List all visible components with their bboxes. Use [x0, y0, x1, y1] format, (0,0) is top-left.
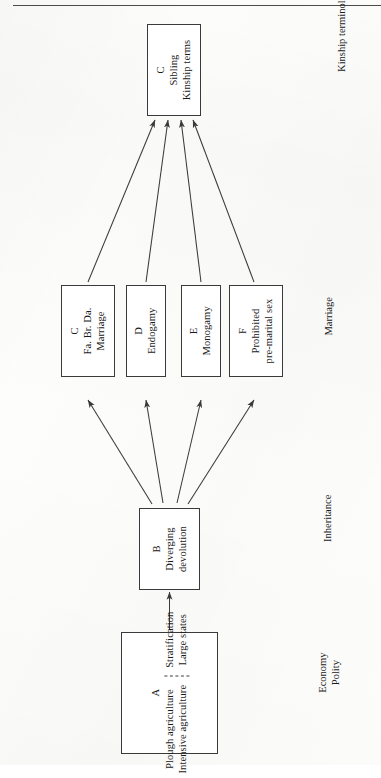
node-a-polity-line-1: Stratification	[164, 612, 176, 668]
node-b-text: B Diverging devolution	[150, 526, 188, 572]
node-c-marriage-code: C	[69, 308, 81, 355]
node-a-polity-line-2: Large states	[177, 612, 189, 668]
node-d-line-1: Endogamy	[147, 308, 159, 354]
node-e-line-1: Monogamy	[202, 306, 214, 355]
page-top-rule	[13, 5, 381, 6]
node-d-text: D Endogamy	[133, 308, 159, 354]
zone-label-inheritance: Inheritance	[299, 512, 359, 578]
node-b-diverging-devolution[interactable]: B Diverging devolution	[139, 508, 200, 590]
node-d-code: D	[133, 308, 145, 354]
edge-f-to-c-top	[193, 120, 254, 282]
node-e-text: E Monogamy	[188, 306, 214, 355]
zone-label-marriage: Marriage	[299, 310, 359, 356]
node-a-economy-polity[interactable]: A Plough agriculture Intensive agricultu…	[121, 632, 218, 754]
node-c-marriage-line-1: Fa. Br. Da.	[82, 308, 94, 355]
node-d-endogamy[interactable]: D Endogamy	[126, 285, 166, 377]
zone-economy-text: Economy Polity	[316, 652, 341, 692]
node-a-economy-line-1: Plough agriculture	[164, 685, 176, 774]
zone-inheritance-text: Inheritance	[323, 495, 336, 542]
node-a-polity-group: Stratification Large states	[164, 605, 189, 675]
edge-b-to-d	[146, 400, 163, 503]
node-c-top-text: C Sibling Kinship terms	[155, 40, 193, 101]
node-a-columns: Plough agriculture Intensive agriculture…	[164, 605, 189, 778]
zone-economy-line-1: Economy	[316, 652, 329, 692]
node-a-text: A Plough agriculture Intensive agricultu…	[150, 605, 189, 778]
zone-economy-line-2: Polity	[329, 652, 342, 692]
zone-label-kinship-terminology: Kinship terminology	[299, 22, 359, 118]
node-f-code: F	[237, 299, 249, 364]
node-c-marriage-text: C Fa. Br. Da. Marriage	[69, 308, 107, 355]
edge-b-to-f	[188, 400, 254, 504]
node-a-economy-line-2: Intensive agriculture	[177, 685, 189, 774]
node-c-sibling-kinship-terms[interactable]: C Sibling Kinship terms	[147, 24, 201, 116]
node-f-prohibited-pre-marital-sex[interactable]: F Prohibited pre-marital sex	[229, 285, 283, 377]
edge-b-to-e	[177, 400, 201, 503]
zone-marriage-text: Marriage	[323, 297, 336, 335]
node-a-code: A	[150, 689, 162, 697]
node-b-line-1: Diverging	[164, 526, 176, 572]
node-f-line-1: Prohibited	[250, 299, 262, 364]
node-e-monogamy[interactable]: E Monogamy	[181, 285, 221, 377]
edge-e-to-c-top	[181, 120, 201, 282]
node-f-text: F Prohibited pre-marital sex	[237, 299, 275, 364]
node-b-line-2: devolution	[176, 526, 188, 572]
node-c-top-code: C	[155, 40, 167, 101]
edge-b-to-c-marriage	[88, 400, 152, 504]
node-e-code: E	[188, 306, 200, 355]
node-f-line-2: pre-marital sex	[263, 299, 275, 364]
node-c-marriage-line-2: Marriage	[95, 308, 107, 355]
edge-d-to-c-top	[146, 120, 168, 282]
node-a-economy-group: Plough agriculture Intensive agriculture	[164, 678, 189, 778]
zone-label-economy-polity: Economy Polity	[299, 660, 359, 726]
node-c-top-line-1: Sibling	[168, 40, 180, 101]
node-c-fa-br-da-marriage[interactable]: C Fa. Br. Da. Marriage	[61, 285, 115, 377]
zone-kinship-text: Kinship terminology	[336, 0, 349, 72]
node-c-top-line-2: Kinship terms	[181, 40, 193, 101]
node-b-code: B	[150, 526, 162, 572]
edge-c-marriage-to-c-top	[88, 120, 155, 282]
